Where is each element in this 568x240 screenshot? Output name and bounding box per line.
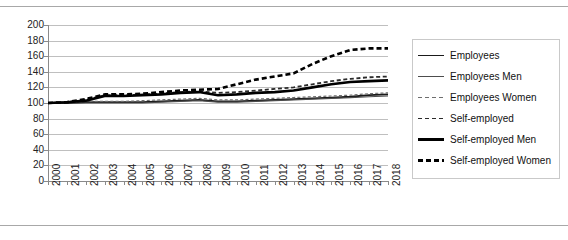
x-tick-mark <box>86 181 87 185</box>
page-rule-bottom <box>0 225 568 226</box>
x-tick-label: 2004 <box>128 164 138 186</box>
x-tick-label: 2010 <box>241 164 251 186</box>
legend-label: Self-employed Men <box>450 134 536 145</box>
x-tick-label: 2002 <box>90 164 100 186</box>
legend-label: Employees Women <box>450 92 537 103</box>
x-tick-label: 2007 <box>184 164 194 186</box>
y-tick-label: 100 <box>27 98 44 108</box>
legend-swatch-icon <box>418 135 444 145</box>
x-tick-label: 2000 <box>52 164 62 186</box>
chart-legend: EmployeesEmployees MenEmployees WomenSel… <box>412 39 560 179</box>
legend-item-5[interactable]: Self-employed Women <box>418 150 555 171</box>
y-tick-label: 120 <box>27 82 44 92</box>
legend-swatch-icon <box>418 51 444 61</box>
x-tick-label: 2011 <box>260 164 270 186</box>
legend-item-4[interactable]: Self-employed Men <box>418 129 555 150</box>
x-axis-labels: 2000200120022003200420052006200720082009… <box>48 186 393 222</box>
x-tick-label: 2008 <box>203 164 213 186</box>
x-tick-label: 2017 <box>373 164 383 186</box>
y-tick-label: 80 <box>33 114 44 124</box>
y-tick-label: 160 <box>27 51 44 61</box>
x-tick-mark <box>388 181 389 185</box>
y-tick-label: 200 <box>27 20 44 30</box>
line-chart-figure: 020406080100120140160180200 200020012002… <box>0 14 568 219</box>
x-tick-label: 2001 <box>71 164 81 186</box>
x-tick-label: 2003 <box>109 164 119 186</box>
x-tick-mark <box>48 181 49 185</box>
legend-swatch-icon <box>418 72 444 82</box>
page-rule-top <box>0 6 568 7</box>
series-lines <box>48 25 388 181</box>
x-tick-label: 2005 <box>146 164 156 186</box>
legend-item-1[interactable]: Employees Men <box>418 66 555 87</box>
x-tick-label: 2009 <box>222 164 232 186</box>
legend-swatch-icon <box>418 93 444 103</box>
x-tick-label: 2014 <box>316 164 326 186</box>
x-tick-mark <box>105 181 106 185</box>
legend-item-3[interactable]: Self-employed <box>418 108 555 129</box>
legend-item-2[interactable]: Employees Women <box>418 87 555 108</box>
legend-item-0[interactable]: Employees <box>418 45 555 66</box>
legend-label: Employees <box>450 50 499 61</box>
legend-label: Self-employed Women <box>450 155 551 166</box>
x-tick-mark <box>256 181 257 185</box>
y-tick-label: 20 <box>33 160 44 170</box>
legend-swatch-icon <box>418 114 444 124</box>
x-tick-mark <box>199 181 200 185</box>
x-tick-mark <box>124 181 125 185</box>
x-tick-mark <box>161 181 162 185</box>
series-line-4 <box>48 80 388 103</box>
x-tick-mark <box>275 181 276 185</box>
x-tick-label: 2018 <box>392 164 402 186</box>
x-tick-mark <box>142 181 143 185</box>
y-tick-label: 60 <box>33 129 44 139</box>
y-axis-labels: 020406080100120140160180200 <box>0 25 44 185</box>
x-tick-mark <box>331 181 332 185</box>
x-tick-mark <box>312 181 313 185</box>
x-tick-label: 2015 <box>335 164 345 186</box>
y-tick-label: 180 <box>27 36 44 46</box>
x-tick-mark <box>369 181 370 185</box>
plot-inner <box>48 25 388 181</box>
x-tick-mark <box>350 181 351 185</box>
x-tick-mark <box>294 181 295 185</box>
legend-label: Self-employed <box>450 113 514 124</box>
x-tick-mark <box>67 181 68 185</box>
x-tick-mark <box>180 181 181 185</box>
x-tick-mark <box>218 181 219 185</box>
x-tick-label: 2006 <box>165 164 175 186</box>
x-tick-label: 2013 <box>298 164 308 186</box>
legend-swatch-icon <box>418 156 444 166</box>
x-tick-label: 2012 <box>279 164 289 186</box>
legend-label: Employees Men <box>450 71 522 82</box>
y-tick-label: 40 <box>33 145 44 155</box>
x-tick-label: 2016 <box>354 164 364 186</box>
y-tick-label: 140 <box>27 67 44 77</box>
x-tick-mark <box>237 181 238 185</box>
